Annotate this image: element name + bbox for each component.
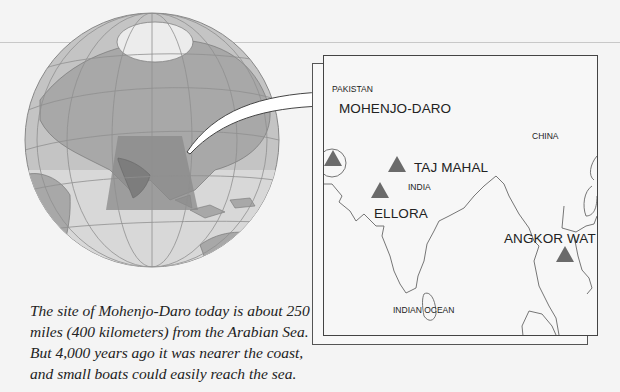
caption-line: The site of Mohenjo-Daro today is about …	[30, 300, 330, 321]
site-marker-mohenjo-daro	[324, 150, 342, 166]
label-china: CHINA	[532, 131, 558, 141]
caption-line: But 4,000 years ago it was nearer the co…	[30, 342, 330, 363]
label-indian-ocean: INDIAN OCEAN	[393, 305, 454, 315]
label-ellora: ELLORA	[374, 206, 428, 221]
label-pakistan: PAKISTAN	[332, 84, 373, 94]
inset-map: PAKISTAN MOHENJO-DARO CHINA TAJ MAHAL IN…	[323, 55, 598, 336]
site-marker-ellora	[371, 182, 389, 198]
label-india: INDIA	[408, 182, 431, 192]
label-mohenjo-daro: MOHENJO-DARO	[339, 101, 451, 116]
caption: The site of Mohenjo-Daro today is about …	[30, 300, 330, 384]
globe-map	[0, 0, 330, 280]
label-angkor-wat: ANGKOR WAT	[504, 231, 596, 246]
caption-line: miles (400 kilometers) from the Arabian …	[30, 321, 330, 342]
site-marker-angkor-wat	[556, 246, 574, 262]
label-taj-mahal: TAJ MAHAL	[414, 160, 488, 175]
inset-coastlines	[324, 56, 597, 335]
caption-line: and small boats could easily reach the s…	[30, 363, 330, 384]
site-marker-taj-mahal	[388, 156, 406, 172]
